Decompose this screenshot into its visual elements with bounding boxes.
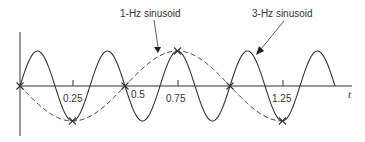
one-hz-pointer <box>154 20 158 47</box>
t-axis-label: t <box>348 88 352 100</box>
one-hz-arrowhead-icon <box>154 47 161 53</box>
one-hz-label: 1-Hz sinusoid <box>120 8 181 19</box>
sinusoid-diagram: 0.25 0.5 0.75 1.25 t 1-Hz sinusoid 3-Hz … <box>0 0 365 142</box>
tick-label-125: 1.25 <box>272 93 292 104</box>
tick-label-075: 0.75 <box>166 93 186 104</box>
tick-label-05: 0.5 <box>131 89 145 100</box>
three-hz-label: 3-Hz sinusoid <box>252 8 313 19</box>
tick-label-025: 0.25 <box>63 93 83 104</box>
three-hz-pointer <box>261 21 284 49</box>
